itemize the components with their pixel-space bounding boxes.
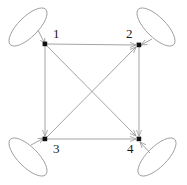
diagram-canvas: 1 2 3 4 (0, 0, 187, 185)
node-label-2: 2 (126, 27, 133, 40)
self-loop-2-arrowhead (141, 39, 152, 45)
node-label-1: 1 (53, 27, 60, 40)
node-1[interactable] (43, 42, 48, 47)
self-loop-4-arrowhead (140, 142, 150, 153)
node-2[interactable] (137, 43, 142, 48)
directed-graph (0, 0, 187, 185)
node-3[interactable] (43, 137, 48, 142)
node-4[interactable] (137, 137, 142, 142)
self-loop-3-arrowhead (31, 138, 44, 145)
edge-1-to-2 (46, 44, 136, 45)
node-label-3: 3 (53, 142, 60, 155)
edge-1-to-4 (46, 45, 136, 136)
edge-3-to-2 (46, 47, 136, 138)
node-label-4: 4 (127, 142, 134, 155)
